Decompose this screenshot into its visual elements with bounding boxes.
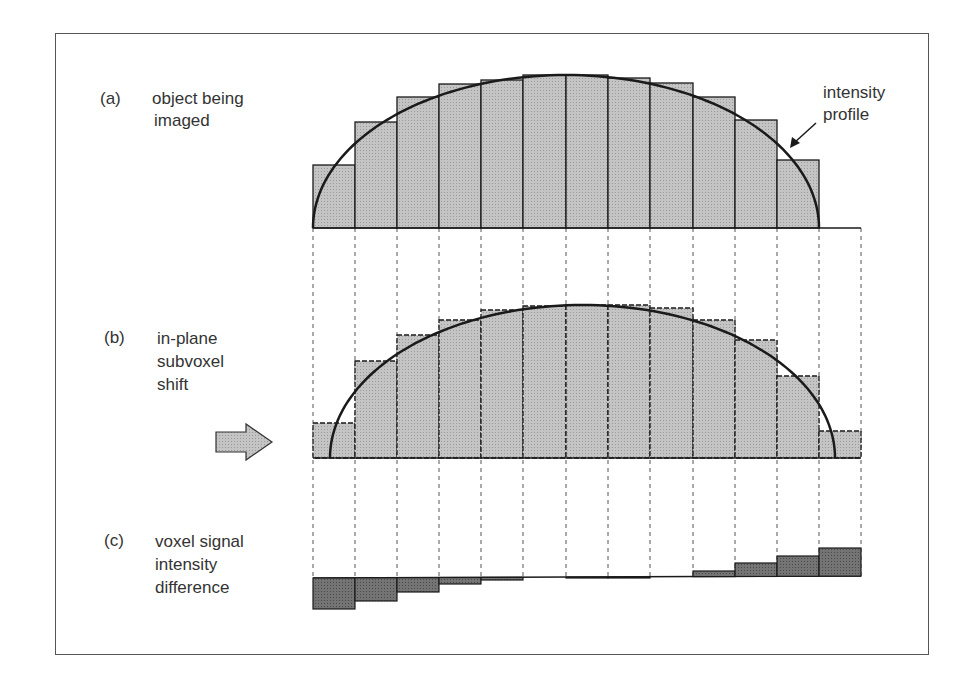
panel-a-histogram [313, 75, 861, 228]
voxel-shift-diagram [0, 0, 962, 680]
panel-b-histogram [313, 305, 861, 458]
annotation-pointer-arrow-icon [790, 123, 816, 148]
panel-c-difference-bars [313, 548, 861, 609]
shift-arrow-icon [216, 424, 272, 460]
